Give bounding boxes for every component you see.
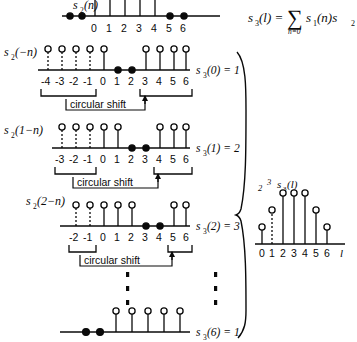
row-s2-1-minus-n: s 2 (1−n) -3 -2 -1 0 1 2 3 4 5 6: [4, 123, 240, 188]
row3-shift-caption: circular shift: [77, 176, 133, 188]
row2-stem-head: [157, 46, 163, 52]
plot-stem-head-3: [291, 190, 297, 196]
plot-tick-4: 4: [302, 247, 308, 259]
row1-tick-6: 6: [180, 22, 186, 34]
row4-shift-caption: circular shift: [84, 254, 140, 266]
plot-title-base: s: [277, 178, 281, 190]
row5-stem-head: [161, 308, 167, 314]
row4-result-base: s: [196, 220, 201, 232]
row4-tick-0: 0: [100, 231, 106, 243]
row-s2-n: s 2 (n) 0 1 2 3 4 5 6: [62, 0, 220, 34]
row1-label-arg: (n): [84, 0, 98, 12]
formula-lhs-arg: (l) =: [259, 10, 283, 25]
formula-rhs-s1: s: [306, 10, 311, 25]
row3-stem-head: [87, 124, 93, 130]
ellipsis-dot: [214, 272, 217, 277]
ellipsis-dot: [126, 272, 129, 277]
row1-tick-4: 4: [151, 22, 157, 34]
row2-stem-head: [45, 46, 51, 52]
row2-label-base: s: [4, 45, 9, 59]
row3-tick--2: -2: [69, 153, 78, 165]
row4-stem-head: [87, 202, 93, 208]
plot-x-axis-label: l: [340, 247, 343, 259]
vertical-ellipsis-left: [126, 272, 129, 305]
row1-tick-0: 0: [91, 22, 97, 34]
row3-result-arg: (1) = 2: [207, 142, 240, 155]
plot-tick-3: 3: [291, 247, 297, 259]
row1-zero-sample: [67, 13, 73, 19]
formula-lhs: s: [248, 10, 253, 25]
row2-stem-head: [73, 46, 79, 52]
row4-tick-3: 3: [142, 231, 148, 243]
formula-rhs-s1-arg: (n)s: [317, 10, 337, 25]
plot-tick-6: 6: [324, 247, 330, 259]
row2-label-arg: (−n): [15, 45, 37, 59]
row3-stem-head: [183, 124, 189, 130]
row3-stem-head: [157, 124, 163, 130]
result-stem-plot: s 3 (l) 2 3 0 1 2 3 4 5 6 l: [255, 177, 345, 259]
row1-label-base: s: [73, 0, 78, 12]
row4-zero-sample: [157, 223, 163, 229]
row3-tick-4: 4: [156, 153, 162, 165]
row5-stem-head: [113, 308, 119, 314]
plot-tick-0: 0: [259, 247, 265, 259]
row4-tick--2: -2: [69, 231, 78, 243]
row2-stem-head: [87, 46, 93, 52]
row4-stem-head: [73, 202, 79, 208]
row4-stem-head: [171, 202, 177, 208]
row3-tick-1: 1: [114, 153, 120, 165]
ellipsis-dot: [126, 300, 129, 305]
circular-convolution-figure: s 3 (l) = ∑ n=0 s 1 (n)s 2 s 2 (n) 0 1 2…: [0, 0, 357, 342]
plot-stem-head-4: [302, 190, 308, 196]
row2-tick-5: 5: [170, 75, 176, 87]
row3-tick--3: -3: [55, 153, 64, 165]
row1-tick-3: 3: [136, 22, 142, 34]
row5-stem-head: [129, 308, 135, 314]
plot-tick-1: 1: [269, 247, 275, 259]
grouping-brace: [236, 52, 246, 338]
row4-tick-6: 6: [183, 231, 189, 243]
row1-zero-sample: [167, 13, 173, 19]
row4-zero-sample: [143, 223, 149, 229]
row2-zero-sample: [129, 67, 135, 73]
row2-stem-head: [183, 46, 189, 52]
plot-point-label-1: 2: [258, 183, 263, 193]
ellipsis-dot: [126, 286, 129, 291]
formula-expression: s 3 (l) = ∑ n=0 s 1 (n)s 2: [248, 5, 355, 36]
row3-tick-3: 3: [142, 153, 148, 165]
row2-shift-caption: circular shift: [70, 98, 126, 110]
row2-tick--1: -1: [83, 75, 92, 87]
row3-label-arg: (1−n): [15, 123, 43, 137]
row2-zero-sample: [115, 67, 121, 73]
row3-tick-5: 5: [170, 153, 176, 165]
row4-tick-1: 1: [114, 231, 120, 243]
row1-tick-2: 2: [121, 22, 127, 34]
row3-zero-sample: [129, 145, 135, 151]
row3-tick-6: 6: [183, 153, 189, 165]
row2-tick-3: 3: [142, 75, 148, 87]
formula-rhs-s2-sub: 2: [351, 19, 355, 28]
row3-tick--1: -1: [83, 153, 92, 165]
row2-result-arg: (0) = 1: [207, 64, 240, 77]
row2-tick--3: -3: [55, 75, 64, 87]
plot-point-label-2: 3: [266, 177, 271, 187]
row4-tick--1: -1: [83, 231, 92, 243]
row2-tick-0: 0: [100, 75, 106, 87]
row3-tick-2: 2: [128, 153, 134, 165]
row1-tick-1: 1: [106, 22, 112, 34]
row4-tick-5: 5: [170, 231, 176, 243]
row2-result-base: s: [196, 64, 201, 76]
row3-stem-head: [115, 124, 121, 130]
row4-label-base: s: [26, 194, 31, 208]
row2-left-bracket: [41, 89, 96, 96]
row4-left-bracket: [69, 245, 96, 252]
row5-stem-head: [177, 308, 183, 314]
row5-result-base: s: [196, 326, 201, 338]
row4-stem-head: [129, 202, 135, 208]
row2-tick-6: 6: [183, 75, 189, 87]
row4-tick-4: 4: [156, 231, 162, 243]
row2-stem-head: [171, 46, 177, 52]
ellipsis-dot: [214, 286, 217, 291]
row2-stem-head: [143, 46, 149, 52]
row2-tick--2: -2: [69, 75, 78, 87]
